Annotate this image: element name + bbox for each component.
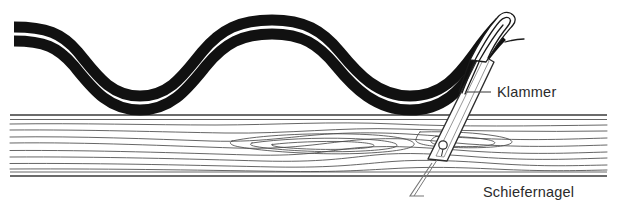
technical-illustration: Klammer Schiefernagel	[0, 0, 617, 210]
clamp-tail	[505, 39, 524, 42]
label-klammer-text: Klammer	[497, 84, 556, 100]
wood-batten	[10, 115, 607, 176]
label-schiefernagel-text: Schiefernagel	[483, 184, 574, 200]
slate-nail-hole	[439, 141, 447, 149]
illustration-canvas: Klammer Schiefernagel	[0, 0, 617, 210]
corrugated-roof-profile	[14, 20, 502, 110]
